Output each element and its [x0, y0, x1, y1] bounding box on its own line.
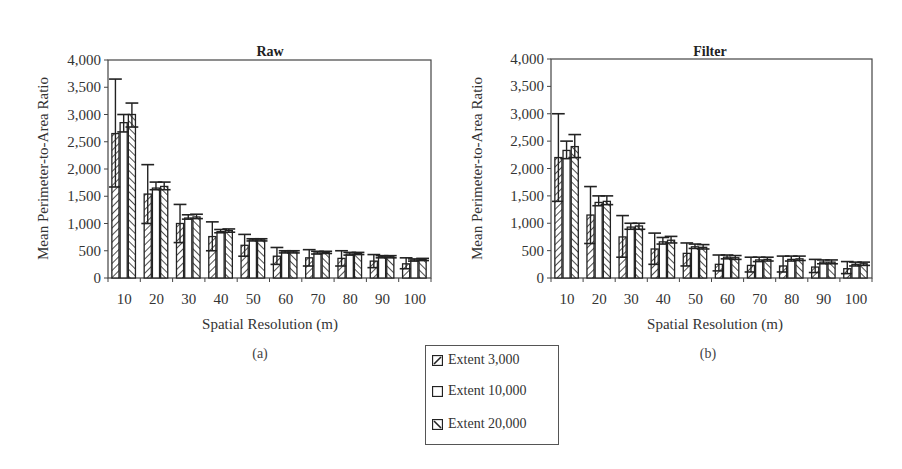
svg-text:100: 100 — [845, 291, 868, 307]
svg-text:60: 60 — [720, 291, 735, 307]
svg-text:10: 10 — [560, 291, 575, 307]
svg-text:0: 0 — [537, 270, 545, 286]
chart-b-panel-label: (b) — [688, 346, 728, 362]
svg-text:1,000: 1,000 — [510, 215, 544, 231]
svg-text:3,500: 3,500 — [510, 78, 544, 94]
svg-text:90: 90 — [816, 291, 831, 307]
legend-label: Extent 3,000 — [448, 352, 520, 368]
legend-label: Extent 20,000 — [448, 416, 527, 432]
legend-label: Extent 10,000 — [448, 383, 527, 399]
chart-b-plot: 05001,0001,5002,0002,5003,0003,5004,0001… — [0, 0, 902, 310]
svg-text:20: 20 — [592, 291, 607, 307]
svg-text:500: 500 — [522, 243, 545, 259]
chart-a-x-axis-label: Spatial Resolution (m) — [150, 316, 390, 333]
chart-a-panel-label: (a) — [240, 346, 280, 362]
legend-item-extent-3000: Extent 3,000 — [432, 352, 520, 368]
svg-text:2,500: 2,500 — [510, 133, 544, 149]
legend-item-extent-10000: Extent 10,000 — [432, 383, 527, 399]
chart-b-x-axis-label: Spatial Resolution (m) — [595, 316, 835, 333]
svg-text:1,500: 1,500 — [510, 188, 544, 204]
back-diagonal-hatch-swatch-icon — [432, 419, 443, 430]
svg-text:2,000: 2,000 — [510, 161, 544, 177]
legend: Extent 3,000 Extent 10,000 Extent 20,000 — [425, 345, 559, 445]
svg-text:50: 50 — [688, 291, 703, 307]
svg-text:30: 30 — [624, 291, 639, 307]
empty-swatch-icon — [432, 386, 443, 397]
legend-item-extent-20000: Extent 20,000 — [432, 416, 527, 432]
svg-text:70: 70 — [752, 291, 767, 307]
svg-text:80: 80 — [784, 291, 799, 307]
diagonal-hatch-swatch-icon — [432, 355, 443, 366]
svg-text:4,000: 4,000 — [510, 51, 544, 67]
svg-text:3,000: 3,000 — [510, 106, 544, 122]
svg-text:40: 40 — [656, 291, 671, 307]
